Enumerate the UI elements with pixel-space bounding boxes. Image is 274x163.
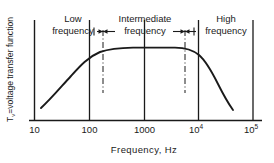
frequency-response-chart: Tv=voltage transfer function Low frequ	[0, 0, 274, 163]
x-axis-title: Frequency, Hz	[111, 144, 177, 155]
y-axis-title-rest: =voltage transfer function	[5, 17, 15, 114]
figure-container: Tv=voltage transfer function Low frequ	[0, 0, 274, 163]
x-tick-exponent-4: 4	[199, 123, 203, 130]
band-high-arrowhead-icon	[185, 29, 190, 33]
band-annotation-high: High frequency	[185, 13, 247, 36]
band-annotation-intermediate: Intermediate frequency	[103, 13, 185, 36]
band-intermediate-arrowhead-left-icon	[103, 29, 108, 33]
band-low-arrowhead-icon	[99, 29, 104, 33]
band-label-low-line2: frequency	[52, 25, 94, 36]
band-label-low-line1: Low	[64, 13, 82, 24]
y-axis-title: Tv=voltage transfer function	[5, 17, 16, 122]
voltage-transfer-function-curve	[41, 48, 233, 110]
x-tick-label-100: 100	[82, 124, 98, 135]
band-label-intermediate-line1: Intermediate	[119, 13, 172, 24]
x-tick-exponent-5: 5	[254, 123, 258, 130]
band-intermediate-arrowhead-right-icon	[181, 29, 186, 33]
x-tick-label-10e4: 104	[189, 123, 204, 135]
band-annotation-low: Low frequency	[52, 13, 103, 36]
y-axis-title-group: Tv=voltage transfer function	[5, 17, 16, 122]
band-label-high-line1: High	[216, 13, 236, 24]
x-tick-label-10: 10	[29, 124, 40, 135]
x-tick-label-1000: 1000	[134, 124, 155, 135]
x-axis-tick-labels: 10 100 1000 104 105	[29, 123, 258, 135]
response-curve-group	[41, 48, 233, 110]
band-label-intermediate-line2: frequency	[124, 25, 166, 36]
x-tick-label-10e5: 105	[244, 123, 259, 135]
band-label-high-line2: frequency	[205, 25, 247, 36]
